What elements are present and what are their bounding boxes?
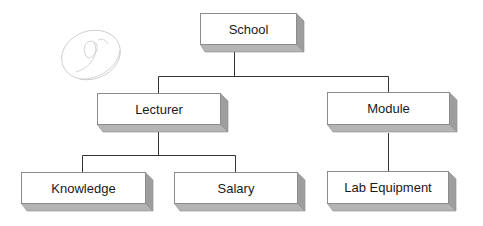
node-label: Lecturer bbox=[97, 93, 221, 125]
node-module: Module bbox=[327, 92, 457, 133]
node-knowledge: Knowledge bbox=[21, 172, 153, 212]
hierarchy-diagram: School Lecturer Module Knowledge bbox=[0, 0, 483, 226]
node-salary: Salary bbox=[174, 172, 305, 212]
node-label: Module bbox=[327, 92, 450, 125]
node-lab-equipment: Lab Equipment bbox=[327, 171, 456, 212]
node-label: Lab Equipment bbox=[327, 171, 449, 204]
node-label: Salary bbox=[174, 172, 298, 204]
node-lecturer: Lecturer bbox=[97, 93, 228, 133]
node-label: School bbox=[200, 13, 297, 45]
node-label: Knowledge bbox=[21, 172, 146, 204]
signature-watermark-icon bbox=[58, 28, 128, 88]
node-school: School bbox=[200, 13, 304, 53]
